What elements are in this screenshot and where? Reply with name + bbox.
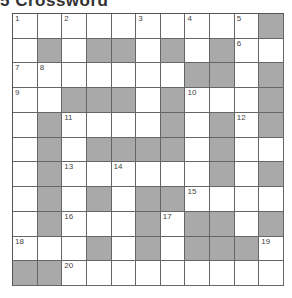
grid-cell[interactable] xyxy=(210,14,235,39)
grid-cell[interactable] xyxy=(38,237,63,262)
grid-cell[interactable] xyxy=(161,237,186,262)
grid-cell[interactable] xyxy=(112,237,137,262)
clue-number: 7 xyxy=(15,63,19,72)
grid-cell[interactable] xyxy=(112,63,137,88)
grid-cell[interactable] xyxy=(38,14,63,39)
grid-cell[interactable]: 20 xyxy=(62,261,87,286)
block-cell xyxy=(259,63,284,88)
grid-cell[interactable] xyxy=(62,138,87,163)
grid-cell[interactable]: 18 xyxy=(13,237,38,262)
grid-cell[interactable] xyxy=(235,138,260,163)
grid-cell[interactable] xyxy=(235,63,260,88)
grid-cell[interactable] xyxy=(185,113,210,138)
block-cell xyxy=(87,237,112,262)
grid-cell[interactable] xyxy=(235,187,260,212)
grid-cell[interactable] xyxy=(13,212,38,237)
grid-cell[interactable] xyxy=(87,113,112,138)
grid-cell[interactable]: 5 xyxy=(235,14,260,39)
grid-cell[interactable] xyxy=(13,113,38,138)
clue-number: 12 xyxy=(237,113,246,122)
grid-cell[interactable] xyxy=(62,187,87,212)
block-cell xyxy=(259,113,284,138)
grid-cell[interactable] xyxy=(210,187,235,212)
grid-cell[interactable]: 16 xyxy=(62,212,87,237)
grid-cell[interactable] xyxy=(235,261,260,286)
grid-cell[interactable]: 3 xyxy=(136,14,161,39)
block-cell xyxy=(112,39,137,64)
grid-cell[interactable] xyxy=(161,261,186,286)
grid-cell[interactable] xyxy=(62,237,87,262)
grid-cell[interactable] xyxy=(185,162,210,187)
block-cell xyxy=(38,162,63,187)
grid-cell[interactable] xyxy=(136,63,161,88)
grid-cell[interactable] xyxy=(235,88,260,113)
grid-cell[interactable] xyxy=(62,63,87,88)
grid-cell[interactable]: 4 xyxy=(185,14,210,39)
grid-cell[interactable]: 14 xyxy=(112,162,137,187)
block-cell xyxy=(38,261,63,286)
block-cell xyxy=(38,212,63,237)
grid-cell[interactable] xyxy=(259,39,284,64)
grid-cell[interactable] xyxy=(136,113,161,138)
grid-cell[interactable] xyxy=(112,212,137,237)
grid-cell[interactable] xyxy=(185,39,210,64)
grid-cell[interactable] xyxy=(259,187,284,212)
clue-number: 20 xyxy=(64,261,73,270)
grid-cell[interactable] xyxy=(136,88,161,113)
grid-cell[interactable] xyxy=(13,138,38,163)
clue-number: 15 xyxy=(187,187,196,196)
grid-cell[interactable] xyxy=(112,113,137,138)
grid-cell[interactable] xyxy=(112,261,137,286)
grid-cell[interactable] xyxy=(259,138,284,163)
grid-cell[interactable]: 19 xyxy=(259,237,284,262)
grid-cell[interactable] xyxy=(87,261,112,286)
grid-cell[interactable] xyxy=(87,63,112,88)
grid-cell[interactable] xyxy=(38,88,63,113)
grid-cell[interactable] xyxy=(13,39,38,64)
grid-cell[interactable] xyxy=(185,261,210,286)
grid-cell[interactable] xyxy=(161,14,186,39)
grid-cell[interactable]: 7 xyxy=(13,63,38,88)
grid-cell[interactable] xyxy=(235,212,260,237)
grid-cell[interactable] xyxy=(112,187,137,212)
grid-cell[interactable]: 1 xyxy=(13,14,38,39)
grid-cell[interactable]: 10 xyxy=(185,88,210,113)
grid-cell[interactable]: 17 xyxy=(161,212,186,237)
clue-number: 14 xyxy=(114,162,123,171)
block-cell xyxy=(161,113,186,138)
grid-cell[interactable]: 15 xyxy=(185,187,210,212)
grid-cell[interactable]: 9 xyxy=(13,88,38,113)
grid-cell[interactable] xyxy=(87,14,112,39)
clue-number: 9 xyxy=(15,88,19,97)
block-cell xyxy=(38,138,63,163)
block-cell xyxy=(161,187,186,212)
grid-cell[interactable] xyxy=(112,14,137,39)
block-cell xyxy=(210,39,235,64)
grid-cell[interactable] xyxy=(136,39,161,64)
block-cell xyxy=(38,187,63,212)
grid-cell[interactable]: 8 xyxy=(38,63,63,88)
block-cell xyxy=(259,88,284,113)
grid-cell[interactable] xyxy=(161,63,186,88)
grid-cell[interactable]: 13 xyxy=(62,162,87,187)
grid-cell[interactable] xyxy=(185,138,210,163)
grid-cell[interactable] xyxy=(136,162,161,187)
grid-cell[interactable] xyxy=(62,39,87,64)
grid-cell[interactable] xyxy=(13,187,38,212)
grid-cell[interactable] xyxy=(161,162,186,187)
grid-cell[interactable] xyxy=(259,261,284,286)
clue-number: 1 xyxy=(15,14,19,23)
grid-cell[interactable] xyxy=(235,162,260,187)
grid-cell[interactable]: 6 xyxy=(235,39,260,64)
block-cell xyxy=(112,88,137,113)
grid-cell[interactable] xyxy=(136,261,161,286)
block-cell xyxy=(161,88,186,113)
grid-cell[interactable]: 2 xyxy=(62,14,87,39)
grid-cell[interactable]: 12 xyxy=(235,113,260,138)
grid-cell[interactable] xyxy=(13,162,38,187)
grid-cell[interactable] xyxy=(210,261,235,286)
grid-cell[interactable] xyxy=(87,212,112,237)
grid-cell[interactable]: 11 xyxy=(62,113,87,138)
grid-cell[interactable] xyxy=(210,88,235,113)
grid-cell[interactable] xyxy=(87,162,112,187)
